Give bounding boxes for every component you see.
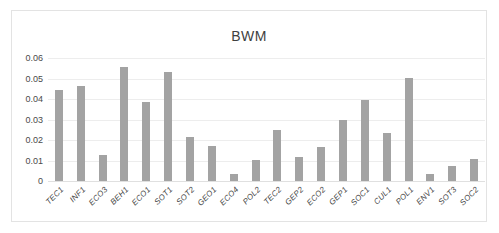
bar[interactable] (273, 130, 281, 181)
bar-slot (310, 58, 332, 181)
chart-title: BWM (12, 28, 486, 44)
x-axis-tick-label: INF1 (68, 185, 87, 204)
y-axis-tick-label: 0 (38, 176, 43, 186)
plot-area: 00.010.020.030.040.050.06 (48, 58, 488, 181)
x-axis-tick-label: TEC1 (44, 185, 65, 206)
bar[interactable] (295, 157, 303, 181)
x-axis-tick-label: POL1 (393, 185, 414, 206)
y-axis-tick-label: 0.03 (25, 115, 43, 125)
y-axis-tick-label: 0.04 (25, 94, 43, 104)
x-axis-tick-label: POL2 (241, 185, 262, 206)
bar-slot (332, 58, 354, 181)
x-axis-tick-labels: TEC1INF1ECO3BEH1ECO1SOT1SOT2GEO1ECO4POL2… (48, 183, 485, 223)
bar[interactable] (186, 137, 194, 181)
bar[interactable] (317, 147, 325, 181)
x-axis-tick-slot: SOC2 (463, 183, 485, 223)
x-axis-tick-slot: POL2 (245, 183, 267, 223)
x-axis-tick-label: TEC2 (262, 185, 283, 206)
x-axis-tick-slot: ECO1 (135, 183, 157, 223)
x-axis-tick-slot: ENV1 (419, 183, 441, 223)
bar[interactable] (120, 67, 128, 181)
gridline (48, 181, 485, 182)
y-axis-tick-label: 0.05 (25, 74, 43, 84)
bar[interactable] (470, 159, 478, 181)
top-caption-strip (0, 0, 499, 9)
bar-slot (376, 58, 398, 181)
bar[interactable] (426, 174, 434, 181)
bar[interactable] (164, 72, 172, 181)
bar-slot (441, 58, 463, 181)
bar-slot (245, 58, 267, 181)
bar[interactable] (208, 146, 216, 181)
x-axis-tick-slot: SOC1 (354, 183, 376, 223)
bar-slot (463, 58, 485, 181)
x-axis-tick-label: CUL1 (372, 185, 393, 206)
bar[interactable] (142, 102, 150, 181)
bar-slot (179, 58, 201, 181)
bar-series (48, 58, 485, 181)
x-axis-tick-slot: TEC1 (48, 183, 70, 223)
bar-slot (114, 58, 136, 181)
bar-slot (398, 58, 420, 181)
bar[interactable] (55, 90, 63, 181)
x-axis-tick-slot: ECO4 (223, 183, 245, 223)
bar-slot (70, 58, 92, 181)
bar-slot (201, 58, 223, 181)
x-axis-tick-slot: CUL1 (376, 183, 398, 223)
bar[interactable] (77, 86, 85, 181)
bar[interactable] (448, 166, 456, 181)
x-axis-tick-slot: ECO3 (92, 183, 114, 223)
x-axis-tick-slot: POL1 (398, 183, 420, 223)
chart-frame: BWM 00.010.020.030.040.050.06 TEC1INF1EC… (11, 10, 487, 222)
bar[interactable] (339, 120, 347, 181)
y-axis-tick-label: 0.01 (25, 156, 43, 166)
y-axis-tick-label: 0.02 (25, 135, 43, 145)
x-axis-tick-slot: SOT1 (157, 183, 179, 223)
bar-slot (48, 58, 70, 181)
bar-slot (267, 58, 289, 181)
bar-slot (157, 58, 179, 181)
bar-slot (288, 58, 310, 181)
bar[interactable] (252, 160, 260, 181)
bar-slot (135, 58, 157, 181)
y-axis-tick-label: 0.06 (25, 53, 43, 63)
bar[interactable] (405, 78, 413, 181)
bar[interactable] (230, 174, 238, 181)
bar-slot (419, 58, 441, 181)
bar[interactable] (383, 133, 391, 181)
bar-slot (223, 58, 245, 181)
bar-slot (354, 58, 376, 181)
bar[interactable] (361, 100, 369, 181)
bar[interactable] (99, 155, 107, 181)
bar-slot (92, 58, 114, 181)
